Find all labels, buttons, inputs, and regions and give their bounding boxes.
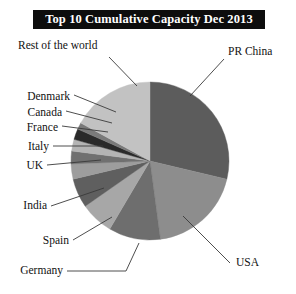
- slice-label-canada: Canada: [28, 107, 62, 119]
- slice-label-rest-of-the-world: Rest of the world: [18, 40, 98, 52]
- slice-label-italy: Italy: [28, 141, 49, 153]
- slice-label-germany: Germany: [20, 265, 63, 277]
- leader-usa: [183, 216, 230, 263]
- leader-rest-of-the-world: [109, 57, 137, 86]
- pie-chart-figure: Top 10 Cumulative Capacity Dec 2013 Rest…: [0, 0, 296, 294]
- slice-label-spain: Spain: [43, 235, 69, 247]
- leader-spain: [73, 217, 112, 240]
- slice-label-usa: USA: [236, 257, 259, 269]
- slice-label-india: India: [23, 200, 47, 212]
- slice-label-france: France: [27, 122, 58, 134]
- leader-pr-china: [190, 59, 224, 96]
- slice-label-denmark: Denmark: [27, 91, 70, 103]
- slice-label-uk: UK: [26, 160, 43, 172]
- leader-germany: [67, 243, 139, 271]
- slice-label-pr-china: PR China: [228, 46, 272, 58]
